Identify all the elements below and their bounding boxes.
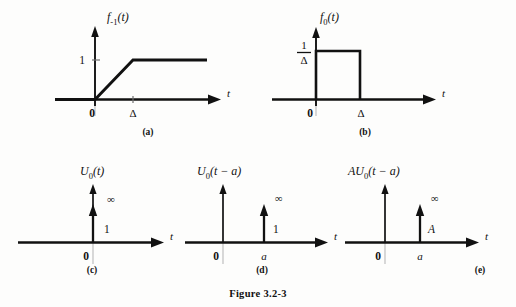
panel-e-y-arrowhead	[381, 184, 388, 194]
panel-a: f-1(t) t 1 0 Δ	[55, 4, 245, 122]
panel-c-origin-label: 0	[83, 250, 89, 262]
panel-a-y-tick-label: 1	[79, 54, 85, 66]
panel-b-plot: f0(t) t 1 Δ 0 Δ	[272, 4, 462, 122]
panel-e-x-axis-label: t	[485, 230, 489, 242]
panel-b-y-tick-label: 1 Δ	[297, 39, 311, 66]
panel-d: U0(t − a) t ∞ 1 0 a	[185, 160, 360, 270]
panel-a-x-tick-label: Δ	[129, 107, 136, 119]
panel-c-infinity-label: ∞	[107, 193, 115, 205]
panel-b-x-arrowhead	[423, 95, 436, 105]
panel-b-fraction-denominator: Δ	[300, 54, 307, 66]
figure-caption: Figure 3.2-3	[0, 288, 516, 299]
panel-e-title: AU0(t − a)	[347, 164, 400, 181]
panel-c-plot: U0(t) t ∞ 1 0	[18, 160, 193, 270]
panel-b-title: f0(t)	[320, 10, 339, 27]
panel-b-x-tick-label: Δ	[357, 107, 364, 119]
figure-sheet: f-1(t) t 1 0 Δ (a) f0(t)	[0, 0, 516, 307]
panel-b: f0(t) t 1 Δ 0 Δ	[272, 4, 462, 122]
panel-e-caption: (e)	[460, 265, 500, 275]
panel-b-x-axis-label: t	[442, 87, 446, 99]
panel-c-x-axis-label: t	[170, 230, 174, 242]
panel-c-y-arrowhead	[89, 184, 96, 194]
panel-b-origin-label: 0	[307, 107, 313, 119]
panel-c-strength-label: 1	[104, 223, 110, 235]
panel-a-origin-label: 0	[89, 107, 95, 119]
panel-c-x-arrowhead	[151, 238, 164, 248]
panel-a-title: f-1(t)	[107, 10, 129, 27]
panel-a-x-axis-label: t	[227, 87, 231, 99]
panel-e-origin-label: 0	[375, 250, 381, 262]
panel-a-y-arrowhead	[91, 26, 99, 37]
panel-c-caption: (c)	[72, 265, 112, 275]
panel-e: AU0(t − a) t ∞ A 0 a	[345, 160, 515, 270]
panel-c: U0(t) t ∞ 1 0	[18, 160, 193, 270]
panel-a-ramp-curve	[55, 60, 207, 100]
panel-c-title: U0(t)	[80, 164, 104, 181]
panel-d-infinity-label: ∞	[275, 193, 283, 204]
panel-a-x-arrowhead	[208, 95, 221, 105]
panel-d-x-arrowhead	[315, 238, 328, 248]
panel-e-impulse-arrowhead	[416, 204, 424, 216]
panel-d-caption: (d)	[242, 265, 282, 275]
panel-b-caption: (b)	[345, 127, 385, 137]
panel-e-x-arrowhead	[466, 238, 479, 248]
panel-d-strength-label: 1	[273, 223, 279, 235]
panel-d-impulse-arrowhead	[260, 204, 268, 216]
panel-e-position-label: a	[417, 250, 423, 262]
panel-a-caption: (a)	[128, 127, 168, 137]
panel-b-pulse-outline	[316, 51, 360, 100]
panel-d-plot: U0(t − a) t ∞ 1 0 a	[185, 160, 360, 270]
panel-d-position-label: a	[261, 250, 267, 262]
panel-b-fraction-numerator: 1	[301, 39, 307, 51]
panel-d-y-arrowhead	[219, 184, 226, 194]
panel-c-impulse-arrowhead	[89, 204, 97, 216]
panel-e-strength-label: A	[427, 223, 436, 235]
panel-d-x-axis-label: t	[334, 230, 338, 242]
panel-e-plot: AU0(t − a) t ∞ A 0 a	[345, 160, 515, 270]
panel-e-infinity-label: ∞	[431, 193, 439, 204]
panel-a-plot: f-1(t) t 1 0 Δ	[55, 4, 245, 122]
panel-b-y-arrowhead	[312, 27, 320, 38]
panel-d-title: U0(t − a)	[197, 164, 241, 181]
panel-d-origin-label: 0	[213, 250, 219, 262]
